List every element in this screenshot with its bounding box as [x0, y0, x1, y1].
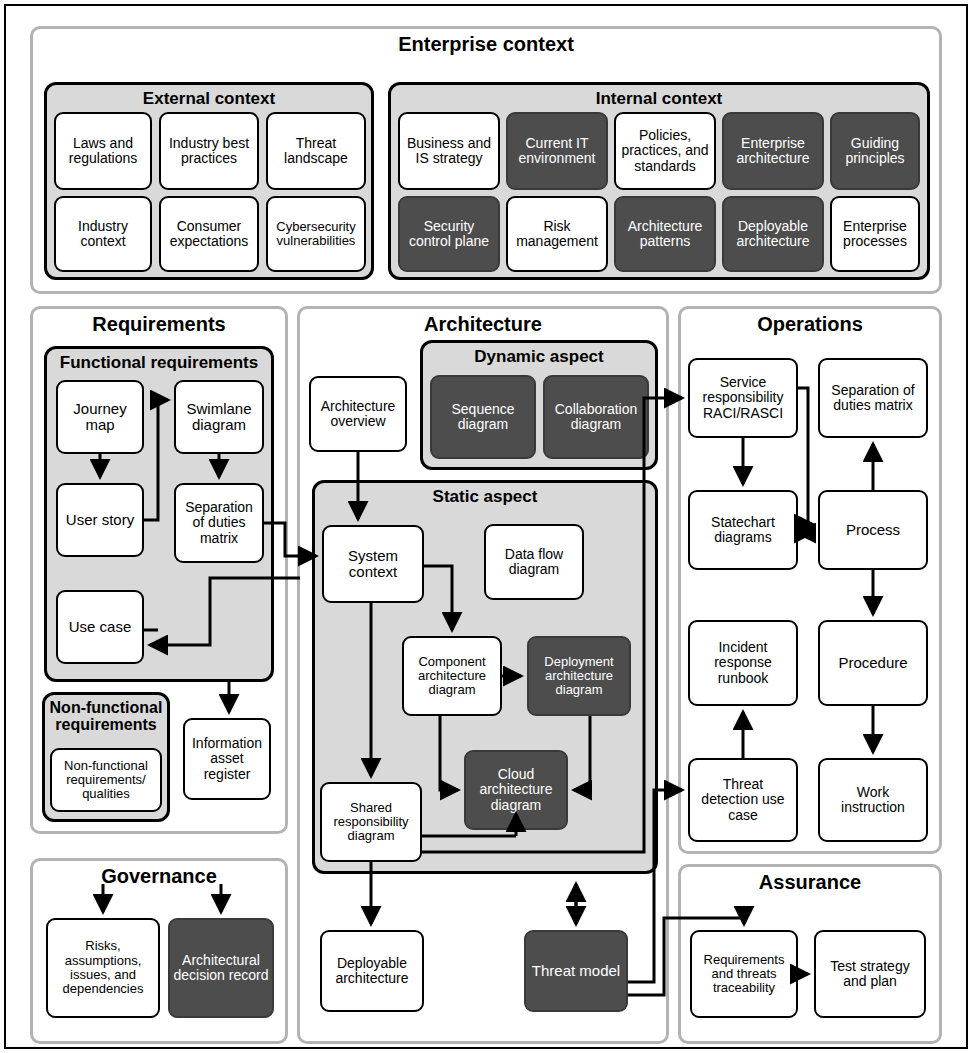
- node-requirements-and-threats-traceability[interactable]: Requirements and threats traceability: [690, 930, 798, 1018]
- node-security-control-plane[interactable]: Security control plane: [398, 196, 500, 272]
- node-industry-best-practices[interactable]: Industry best practices: [159, 112, 259, 190]
- node-non-functional-requirements-qualities[interactable]: Non-functional requirements/ qualities: [50, 748, 162, 812]
- static-aspect-title: Static aspect: [315, 488, 655, 506]
- node-test-strategy-and-plan[interactable]: Test strategy and plan: [814, 930, 926, 1018]
- node-use-case[interactable]: Use case: [56, 590, 144, 664]
- node-consumer-expectations[interactable]: Consumer expectations: [159, 196, 259, 272]
- node-sequence-diagram[interactable]: Sequence diagram: [430, 375, 536, 459]
- requirements-title: Requirements: [33, 314, 285, 335]
- node-threat-detection-use-case[interactable]: Threat detection use case: [688, 758, 798, 842]
- governance-title: Governance: [33, 866, 285, 887]
- node-policies-practices-standards[interactable]: Policies, practices, and standards: [614, 112, 716, 190]
- node-current-it-environment[interactable]: Current IT environment: [506, 112, 608, 190]
- node-risk-management[interactable]: Risk management: [506, 196, 608, 272]
- node-guiding-principles[interactable]: Guiding principles: [830, 112, 920, 190]
- node-statechart-diagrams[interactable]: Statechart diagrams: [688, 490, 798, 570]
- node-shared-responsibility-diagram[interactable]: Shared responsibility diagram: [320, 782, 422, 862]
- external-context-title: External context: [47, 90, 371, 108]
- node-risks-assumptions-issues-dependencies[interactable]: Risks, assumptions, issues, and dependen…: [46, 918, 160, 1018]
- node-data-flow-diagram[interactable]: Data flow diagram: [484, 524, 584, 600]
- node-component-architecture-diagram[interactable]: Component architecture diagram: [402, 636, 502, 716]
- internal-context-title: Internal context: [391, 90, 927, 108]
- node-separation-of-duties-matrix-ops[interactable]: Separation of duties matrix: [818, 358, 928, 438]
- node-cloud-architecture-diagram[interactable]: Cloud architecture diagram: [464, 750, 568, 830]
- node-procedure[interactable]: Procedure: [818, 620, 928, 706]
- node-collaboration-diagram[interactable]: Collaboration diagram: [543, 375, 649, 459]
- node-incident-response-runbook[interactable]: Incident response runbook: [688, 620, 798, 706]
- node-threat-landscape[interactable]: Threat landscape: [266, 112, 366, 190]
- node-cybersecurity-vulnerabilities[interactable]: Cybersecurity vulnerabilities: [266, 196, 366, 272]
- node-service-responsibility-raci[interactable]: Service responsibility RACI/RASCI: [688, 358, 798, 438]
- assurance-title: Assurance: [681, 872, 939, 893]
- node-enterprise-processes[interactable]: Enterprise processes: [830, 196, 920, 272]
- node-separation-of-duties-matrix-req[interactable]: Separation of duties matrix: [174, 483, 264, 563]
- node-swimlane-diagram[interactable]: Swimlane diagram: [174, 380, 264, 454]
- node-architecture-patterns[interactable]: Architecture patterns: [614, 196, 716, 272]
- node-laws-and-regulations[interactable]: Laws and regulations: [54, 112, 152, 190]
- node-industry-context[interactable]: Industry context: [54, 196, 152, 272]
- node-process[interactable]: Process: [818, 490, 928, 570]
- architecture-diagram: Enterprise context External context Laws…: [0, 0, 972, 1053]
- architecture-title: Architecture: [300, 314, 666, 335]
- dynamic-aspect-title: Dynamic aspect: [423, 348, 655, 366]
- node-threat-model[interactable]: Threat model: [524, 930, 628, 1012]
- node-business-and-is-strategy[interactable]: Business and IS strategy: [398, 112, 500, 190]
- node-journey-map[interactable]: Journey map: [56, 380, 144, 454]
- node-system-context[interactable]: System context: [322, 525, 424, 603]
- node-deployable-architecture[interactable]: Deployable architecture: [320, 930, 424, 1012]
- node-enterprise-architecture[interactable]: Enterprise architecture: [722, 112, 824, 190]
- node-user-story[interactable]: User story: [56, 483, 144, 557]
- node-deployment-architecture-diagram[interactable]: Deployment architecture diagram: [527, 636, 631, 716]
- functional-requirements-title: Functional requirements: [47, 354, 271, 372]
- enterprise-context-title: Enterprise context: [33, 34, 939, 55]
- operations-title: Operations: [681, 314, 939, 335]
- node-architectural-decision-record[interactable]: Architectural decision record: [168, 918, 274, 1018]
- node-deployable-architecture-ctx[interactable]: Deployable architecture: [722, 196, 824, 272]
- non-functional-requirements-title: Non-functional requirements: [45, 700, 167, 734]
- node-work-instruction[interactable]: Work instruction: [818, 758, 928, 842]
- node-information-asset-register[interactable]: Information asset register: [183, 718, 271, 800]
- node-architecture-overview[interactable]: Architecture overview: [309, 376, 407, 452]
